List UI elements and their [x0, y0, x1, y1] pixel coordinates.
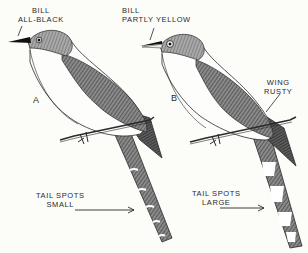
- cuckoo-drawing: [0, 0, 308, 253]
- tail-label-a: TAIL SPOTS SMALL: [36, 191, 85, 209]
- bird-letter-a: A: [33, 95, 39, 105]
- wing-label-b: WING RUSTY: [264, 78, 292, 96]
- illustration-canvas: BILL ALL-BLACK BILL PARTLY YELLOW WING R…: [0, 0, 308, 253]
- tail-label-b: TAIL SPOTS LARGE: [192, 189, 241, 207]
- bird-b: [140, 28, 302, 248]
- bill-label-b: BILL PARTLY YELLOW: [122, 6, 191, 24]
- bird-letter-b: B: [171, 93, 177, 103]
- bill-label-a: BILL ALL-BLACK: [18, 6, 64, 24]
